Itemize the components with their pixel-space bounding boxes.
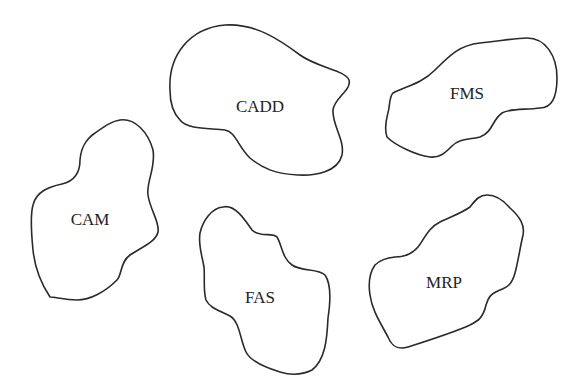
region-cadd-label: CADD <box>236 97 284 116</box>
region-mrp-label: MRP <box>426 273 462 292</box>
region-mrp: MRP <box>369 195 523 348</box>
region-mrp-shape <box>369 195 523 348</box>
region-fms: FMS <box>385 38 557 157</box>
region-cadd: CADD <box>170 25 349 175</box>
region-cam-label: CAM <box>71 210 110 229</box>
region-cam: CAM <box>32 120 159 300</box>
region-fms-label: FMS <box>450 84 484 103</box>
region-fas-label: FAS <box>245 288 275 307</box>
islands-diagram: CADD FMS CAM FAS MRP <box>0 0 581 392</box>
region-fas: FAS <box>199 207 329 375</box>
